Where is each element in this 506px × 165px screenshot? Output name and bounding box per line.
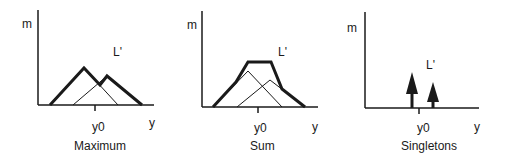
membership-triangle-1 — [213, 71, 282, 107]
sum-envelope — [213, 62, 305, 107]
y-axis-label: m — [347, 21, 357, 35]
x-axis-label: y — [149, 116, 155, 130]
max-envelope — [50, 68, 142, 105]
set-label: L' — [426, 58, 435, 72]
set-label: L' — [113, 45, 122, 59]
x-axis-label: y — [474, 120, 480, 134]
membership-triangle-2 — [73, 76, 142, 105]
tick-label: y0 — [92, 120, 105, 134]
membership-triangle-2 — [237, 80, 305, 107]
panel-sum — [202, 11, 318, 113]
x-axis-label: y — [312, 120, 318, 134]
caption-sum: Sum — [250, 139, 275, 153]
singleton-arrow-1-head — [406, 72, 418, 94]
set-label: L' — [278, 45, 287, 59]
panel-singletons — [365, 12, 479, 114]
tick-label: y0 — [417, 121, 430, 135]
caption-maximum: Maximum — [74, 139, 126, 153]
fuzzy-aggregation-diagram: m L' y0 y Maximum m L' y0 y Sum m L' y0 … — [0, 0, 506, 165]
tick-label: y0 — [254, 121, 267, 135]
singleton-arrow-2-head — [427, 82, 439, 102]
y-axis-label: m — [22, 17, 32, 31]
caption-singletons: Singletons — [401, 139, 457, 153]
membership-triangle-1 — [50, 68, 118, 105]
y-axis-label: m — [187, 18, 197, 32]
panel-maximum — [38, 10, 154, 111]
